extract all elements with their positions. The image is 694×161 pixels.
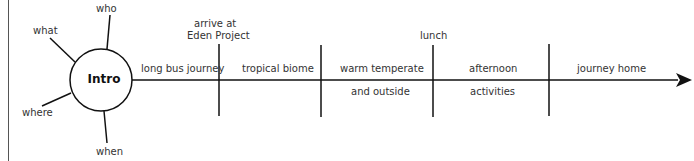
segment-4-label-below: activities bbox=[470, 86, 515, 98]
segment-2-label: tropical biome bbox=[242, 63, 314, 75]
spoke-where bbox=[42, 93, 71, 106]
spoke-when bbox=[104, 111, 107, 143]
segment-3-label-below: and outside bbox=[351, 86, 410, 98]
segment-4-label-above: afternoon bbox=[469, 63, 517, 75]
spoke-who bbox=[107, 15, 110, 49]
spoke-label-who: who bbox=[96, 3, 117, 15]
marker-label-1-line1: arrive at bbox=[194, 18, 236, 30]
segment-1-label: long bus journey bbox=[141, 63, 224, 75]
segment-3-label-above: warm temperate bbox=[340, 63, 424, 75]
marker-label-1-line2: Eden Project bbox=[187, 30, 250, 42]
spoke-label-where: where bbox=[22, 107, 53, 119]
segment-5-label: journey home bbox=[577, 63, 646, 75]
spoke-what bbox=[50, 38, 75, 62]
spoke-label-what: what bbox=[33, 25, 58, 37]
marker-label-lunch: lunch bbox=[420, 30, 447, 42]
spoke-label-when: when bbox=[96, 146, 123, 158]
hub-label: Intro bbox=[74, 72, 134, 86]
arrow-head-icon bbox=[676, 73, 692, 87]
